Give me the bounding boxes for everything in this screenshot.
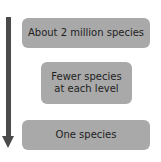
bottom-level-label: One species bbox=[56, 129, 117, 141]
top-level-label: About 2 million species bbox=[28, 27, 144, 39]
top-level-box: About 2 million species bbox=[22, 18, 150, 48]
middle-level-label: Fewer species at each level bbox=[51, 71, 121, 95]
arrow-shaft bbox=[6, 17, 11, 137]
arrow-down-icon bbox=[2, 136, 14, 148]
middle-level-box: Fewer species at each level bbox=[41, 62, 132, 104]
bottom-level-box: One species bbox=[22, 120, 150, 150]
